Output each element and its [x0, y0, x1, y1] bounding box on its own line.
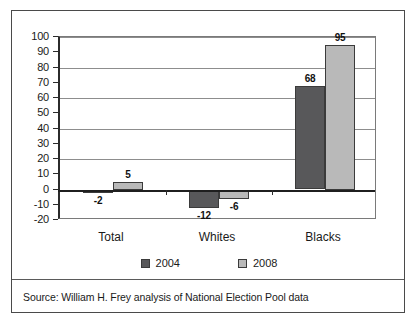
legend-label: 2004 [156, 257, 180, 269]
bar-blacks-2008 [325, 45, 355, 190]
bar-total-2008 [113, 182, 143, 190]
source-note: Source: William H. Frey analysis of Nati… [23, 291, 309, 303]
legend-swatch-2004 [141, 259, 150, 268]
legend-label: 2008 [253, 257, 277, 269]
x-axis-tick [272, 190, 273, 195]
y-axis-tick-label: 30 [7, 138, 58, 148]
y-axis-tick-label: 90 [7, 46, 58, 56]
y-axis-tick-label: -10 [7, 199, 58, 209]
bar-value-label: 5 [108, 169, 148, 180]
y-axis-tick-label: 70 [7, 77, 58, 87]
bar-value-label: -6 [214, 201, 254, 212]
chart-legend: 20042008 [12, 257, 406, 269]
bar-value-label: 95 [320, 32, 360, 43]
bar-value-label: -2 [78, 195, 118, 206]
legend-item-2004[interactable]: 2004 [141, 257, 180, 269]
category-label-total: Total [56, 230, 166, 244]
legend-item-2008[interactable]: 2008 [238, 257, 277, 269]
chart-figure: 1009080706050403020100-10-20 -2-12685-69… [11, 10, 405, 313]
y-axis-tick-label: -20 [7, 214, 58, 224]
plot-area: -2-12685-695 [58, 36, 376, 219]
y-axis-tick-label: 10 [7, 168, 58, 178]
y-axis-tick-label: 0 [7, 184, 58, 194]
bar-value-label: 68 [290, 73, 330, 84]
y-axis-tick-label: 100 [7, 31, 58, 41]
bar-blacks-2004 [295, 86, 325, 190]
zero-axis-line [58, 190, 375, 192]
source-divider [12, 279, 404, 280]
x-axis-tick [166, 190, 167, 195]
legend-swatch-2008 [238, 259, 247, 268]
y-axis-tick-mark [53, 219, 58, 220]
y-axis: 1009080706050403020100-10-20 [12, 36, 58, 219]
y-axis-tick-label: 20 [7, 153, 58, 163]
y-axis-tick-label: 80 [7, 62, 58, 72]
category-label-whites: Whites [162, 230, 272, 244]
y-axis-tick-label: 40 [7, 123, 58, 133]
y-axis-tick-label: 60 [7, 92, 58, 102]
category-label-blacks: Blacks [268, 230, 378, 244]
y-axis-tick-label: 50 [7, 107, 58, 117]
